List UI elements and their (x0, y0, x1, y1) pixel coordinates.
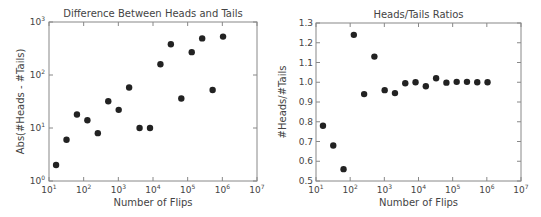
data-point (443, 79, 449, 85)
data-point (95, 130, 101, 136)
data-point (412, 79, 418, 85)
x-axis-label: Number of Flips (113, 197, 192, 208)
data-point (136, 125, 142, 131)
x-tick-label: 107 (249, 183, 264, 195)
data-point (157, 61, 163, 67)
data-point (433, 75, 439, 81)
x-tick-label: 105 (180, 183, 195, 195)
data-point (392, 90, 398, 96)
x-tick-label: 102 (76, 183, 91, 195)
data-point (189, 49, 195, 55)
data-point (381, 87, 387, 93)
data-point (126, 84, 132, 90)
data-point (351, 32, 357, 38)
plot-frame (316, 23, 521, 181)
y-axis-label: #Heads/#Tails (277, 66, 288, 139)
data-point (209, 87, 215, 93)
data-point (147, 125, 153, 131)
y-tick-label: 0.6 (299, 156, 314, 166)
y-tick-label: 101 (30, 121, 45, 133)
y-tick-label: 1.3 (299, 18, 313, 28)
data-point (199, 35, 205, 41)
data-point (361, 91, 367, 97)
y-tick-label: 1.0 (299, 77, 314, 87)
data-point (178, 95, 184, 101)
x-tick-label: 103 (111, 183, 126, 195)
data-point (402, 80, 408, 86)
left-chart-difference: Difference Between Heads and TailsNumber… (15, 8, 265, 208)
data-point (168, 41, 174, 47)
chart-title: Difference Between Heads and Tails (63, 8, 243, 19)
y-tick-label: 1.2 (299, 38, 313, 48)
y-tick-label: 0.9 (299, 97, 314, 107)
data-point (53, 162, 59, 168)
x-tick-label: 103 (377, 183, 392, 195)
x-axis-label: Number of Flips (379, 197, 458, 208)
x-tick-label: 106 (215, 183, 230, 195)
plot-frame (49, 22, 257, 181)
data-point (453, 79, 459, 85)
x-tick-label: 102 (343, 183, 358, 195)
chart-title: Heads/Tails Ratios (373, 9, 463, 20)
data-point (484, 79, 490, 85)
data-point (115, 107, 121, 113)
x-tick-label: 104 (145, 183, 160, 195)
data-point (371, 53, 377, 59)
x-tick-label: 104 (411, 183, 426, 195)
charts-figure: Difference Between Heads and TailsNumber… (0, 0, 541, 217)
y-tick-label: 0.8 (299, 117, 314, 127)
data-point (63, 137, 69, 143)
data-point (474, 79, 480, 85)
x-tick-label: 106 (479, 183, 494, 195)
data-point (340, 166, 346, 172)
data-point (220, 33, 226, 39)
y-tick-label: 0.7 (299, 137, 313, 147)
data-point (320, 123, 326, 129)
data-point (74, 111, 80, 117)
x-tick-label: 101 (41, 183, 56, 195)
y-tick-label: 0.5 (299, 176, 313, 186)
x-tick-label: 107 (513, 183, 528, 195)
y-tick-label: 102 (30, 68, 45, 80)
x-tick-label: 105 (445, 183, 460, 195)
data-point (423, 83, 429, 89)
data-point (105, 98, 111, 104)
y-tick-label: 103 (30, 15, 45, 27)
data-point (464, 79, 470, 85)
data-point (330, 142, 336, 148)
y-axis-label: Abs(#Heads - #Tails) (15, 49, 26, 155)
data-point (84, 117, 90, 123)
y-tick-label: 1.1 (299, 58, 313, 68)
right-chart-ratios: Heads/Tails RatiosNumber of Flips#Heads/… (277, 9, 529, 208)
